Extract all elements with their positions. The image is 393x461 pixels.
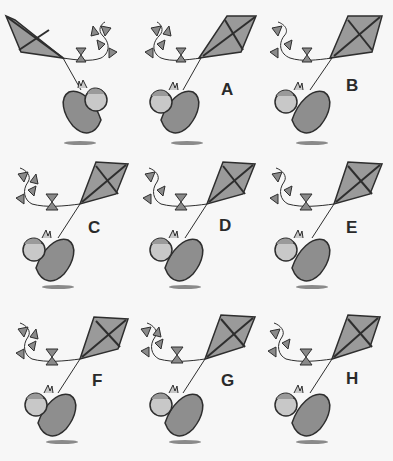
faded-background-text — [140, 283, 390, 301]
kite-icon — [330, 16, 382, 58]
boy-icon — [23, 230, 74, 281]
reference-figure — [0, 0, 131, 150]
kite-boy-illustration — [262, 0, 393, 150]
shadow-icon — [296, 440, 328, 444]
kite-boy-illustration — [131, 0, 262, 150]
shadow-icon — [169, 440, 201, 444]
option-label: D — [219, 216, 231, 236]
kite-tail-bows-icon — [76, 26, 117, 62]
boy-icon — [150, 230, 203, 281]
boy-icon — [63, 80, 107, 133]
kite-icon — [80, 162, 128, 204]
option-h[interactable]: H — [262, 305, 393, 455]
option-g[interactable]: G — [131, 305, 262, 455]
boy-icon — [275, 230, 330, 281]
kite-tail-bows-icon — [141, 327, 183, 363]
kite-tail-bows-icon — [145, 26, 186, 62]
boy-icon — [275, 82, 330, 133]
option-d[interactable]: D — [131, 150, 262, 300]
option-e[interactable]: E — [262, 150, 393, 300]
option-label: B — [346, 76, 358, 96]
boy-icon — [275, 385, 330, 436]
kite-tail-bows-icon — [16, 327, 58, 365]
kite-icon — [334, 162, 382, 204]
option-label: H — [346, 369, 358, 389]
kite-icon — [80, 317, 128, 359]
shadow-icon — [296, 141, 328, 145]
shadow-icon — [42, 285, 74, 289]
kite-boy-illustration — [131, 150, 262, 300]
kite-boy-illustration — [0, 150, 131, 300]
option-label: C — [88, 218, 100, 238]
option-a[interactable]: A — [131, 0, 262, 150]
kite-icon — [207, 162, 255, 204]
kite-icon — [205, 315, 255, 359]
shadow-icon — [64, 141, 96, 145]
option-label: G — [221, 371, 234, 391]
kite-tail-bows-icon — [270, 26, 312, 62]
boy-icon — [25, 385, 76, 436]
shadow-icon — [46, 440, 78, 444]
option-c[interactable]: C — [0, 150, 131, 300]
kite-boy-illustration — [262, 150, 393, 300]
kite-icon — [6, 16, 63, 58]
boy-icon — [150, 82, 199, 133]
kite-tail-bows-icon — [143, 172, 187, 210]
kite-boy-illustration — [0, 0, 131, 150]
option-label: A — [221, 80, 233, 100]
option-label: E — [346, 218, 357, 238]
kite-icon — [332, 315, 380, 359]
shadow-icon — [171, 141, 203, 145]
kite-boy-illustration — [131, 305, 262, 455]
kite-icon — [199, 16, 256, 58]
option-label: F — [92, 371, 102, 391]
kite-boy-illustration — [0, 305, 131, 455]
option-b[interactable]: B — [262, 0, 393, 150]
kite-boy-illustration — [262, 305, 393, 455]
option-f[interactable]: F — [0, 305, 131, 455]
kite-tail-bows-icon — [16, 172, 58, 210]
boy-icon — [150, 385, 203, 436]
